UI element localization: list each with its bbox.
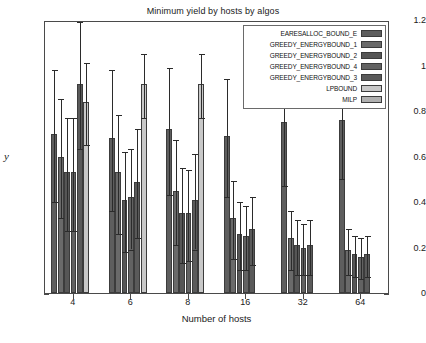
legend-item: GREEDY_ENERGYBOUND_3	[247, 72, 382, 83]
error-cap-bottom	[224, 197, 230, 198]
error-cap-top	[58, 99, 64, 100]
x-tick-mark	[303, 294, 304, 299]
error-bar	[176, 140, 177, 245]
error-bar	[73, 118, 74, 232]
legend-item: MILP	[247, 94, 382, 105]
error-cap-top	[307, 220, 313, 221]
x-tick-mark	[73, 294, 74, 299]
error-cap-top	[128, 149, 134, 150]
error-bar	[182, 168, 183, 264]
error-cap-bottom	[250, 265, 256, 266]
legend-label: GREEDY_ENERGYBOUND_2	[270, 52, 357, 59]
error-bar	[54, 70, 55, 202]
error-bar	[291, 211, 292, 270]
error-cap-top	[65, 118, 71, 119]
error-cap-top	[237, 202, 243, 203]
legend-label: MILP	[342, 96, 357, 103]
legend-item: LPBOUND	[247, 83, 382, 94]
error-bar	[131, 149, 132, 249]
error-cap-top	[346, 229, 352, 230]
error-cap-bottom	[282, 186, 288, 187]
y-axis-label: y	[4, 150, 9, 162]
legend-swatch	[361, 52, 382, 59]
chart-figure: Minimum yield by hosts by algos y Number…	[0, 0, 426, 343]
y-tick-label: 1.2	[388, 15, 426, 25]
y-tick-label: 0.4	[388, 197, 426, 207]
y-tick-label: 0.6	[388, 152, 426, 162]
error-bar	[348, 229, 349, 275]
error-bar	[252, 197, 253, 265]
error-cap-top	[243, 206, 249, 207]
error-bar	[169, 68, 170, 195]
error-cap-top	[199, 54, 205, 55]
error-cap-top	[52, 70, 58, 71]
legend-label: GREEDY_ENERGYBOUND_4	[270, 63, 357, 70]
error-bar	[195, 154, 196, 250]
y-tick-mark-right	[384, 294, 389, 295]
error-cap-top	[180, 168, 186, 169]
legend-swatch	[361, 85, 382, 92]
chart-legend: EARESALLOC_BOUND_EGREEDY_ENERGYBOUND_1GR…	[243, 25, 386, 109]
legend-label: GREEDY_ENERGYBOUND_1	[270, 41, 357, 48]
x-axis-label: Number of hosts	[44, 313, 389, 324]
error-bar	[80, 22, 81, 149]
error-bar	[367, 236, 368, 277]
y-tick-label: 0.8	[388, 106, 426, 116]
legend-item: GREEDY_ENERGYBOUND_2	[247, 50, 382, 61]
error-bar	[240, 202, 241, 270]
chart-title: Minimum yield by hosts by algos	[0, 6, 426, 16]
error-cap-bottom	[365, 277, 371, 278]
error-cap-top	[301, 224, 307, 225]
legend-label: LPBOUND	[326, 85, 357, 92]
error-cap-top	[358, 238, 364, 239]
error-cap-top	[77, 22, 83, 23]
error-bar	[355, 236, 356, 277]
error-cap-top	[288, 211, 294, 212]
x-tick-mark	[245, 294, 246, 299]
error-bar	[118, 115, 119, 233]
y-tick-label: 0	[388, 288, 426, 298]
error-bar	[297, 220, 298, 275]
error-cap-top	[109, 70, 115, 71]
legend-swatch	[361, 96, 382, 103]
error-bar	[227, 79, 228, 197]
x-tick-mark	[130, 294, 131, 299]
x-tick-mark	[188, 294, 189, 299]
y-tick-label: 1	[388, 61, 426, 71]
legend-swatch	[361, 41, 382, 48]
y-tick-label: 0.2	[388, 243, 426, 253]
error-cap-top	[84, 63, 90, 64]
error-bar	[201, 54, 202, 118]
error-cap-top	[141, 54, 147, 55]
error-bar	[188, 170, 189, 261]
error-cap-bottom	[339, 179, 345, 180]
error-cap-top	[173, 140, 179, 141]
error-bar	[233, 181, 234, 258]
error-cap-top	[167, 68, 173, 69]
error-cap-top	[186, 170, 192, 171]
error-bar	[310, 220, 311, 275]
error-bar	[86, 63, 87, 145]
legend-swatch	[361, 63, 382, 70]
error-bar	[361, 238, 362, 279]
error-bar	[61, 99, 62, 217]
legend-item: EARESALLOC_BOUND_E	[247, 28, 382, 39]
legend-swatch	[361, 30, 382, 37]
error-bar	[144, 54, 145, 118]
error-bar	[67, 118, 68, 232]
error-cap-top	[250, 197, 256, 198]
error-bar	[246, 206, 247, 270]
error-bar	[137, 129, 138, 238]
error-bar	[125, 152, 126, 252]
error-cap-bottom	[141, 118, 147, 119]
legend-label: EARESALLOC_BOUND_E	[280, 30, 357, 37]
error-cap-top	[224, 79, 230, 80]
error-cap-top	[352, 236, 358, 237]
error-cap-top	[116, 115, 122, 116]
legend-item: GREEDY_ENERGYBOUND_4	[247, 61, 382, 72]
legend-swatch	[361, 74, 382, 81]
error-cap-top	[365, 236, 371, 237]
error-cap-top	[122, 152, 128, 153]
error-cap-bottom	[199, 118, 205, 119]
error-cap-top	[231, 181, 237, 182]
